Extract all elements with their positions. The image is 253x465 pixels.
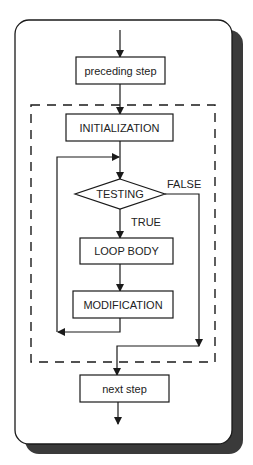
false-branch-label: FALSE [167, 178, 201, 190]
node-next-step-label: next step [102, 383, 147, 395]
node-loop-body: LOOP BODY [80, 238, 173, 264]
true-branch-label: TRUE [131, 216, 161, 228]
flowchart-canvas: preceding step INITIALIZATION TESTING FA… [0, 0, 253, 465]
node-initialization: INITIALIZATION [66, 114, 173, 141]
node-preceding-step: preceding step [76, 57, 165, 84]
node-modification-label: MODIFICATION [83, 299, 162, 311]
node-loop-body-label: LOOP BODY [94, 245, 159, 257]
node-initialization-label: INITIALIZATION [80, 122, 160, 134]
node-testing-label: TESTING [96, 188, 144, 200]
node-preceding-step-label: preceding step [84, 65, 156, 77]
node-next-step: next step [80, 375, 169, 402]
node-modification: MODIFICATION [73, 291, 173, 318]
